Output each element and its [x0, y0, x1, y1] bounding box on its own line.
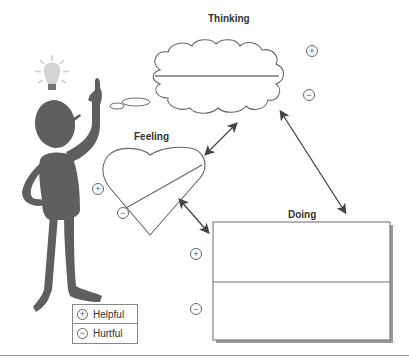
feeling-minus-icon: −	[117, 207, 129, 219]
thinking-cloud	[153, 40, 283, 114]
arrow-feeling-doing	[180, 200, 208, 232]
feeling-heart	[103, 147, 205, 235]
minus-icon: −	[77, 328, 88, 339]
thinking-plus-icon: +	[306, 45, 318, 57]
legend-label: Helpful	[93, 309, 124, 320]
doing-title: Doing	[288, 209, 316, 220]
plus-icon: +	[77, 309, 88, 320]
thought-bubble-medium	[122, 98, 150, 106]
legend-item-helpful: + Helpful	[73, 305, 137, 323]
doing-box	[213, 222, 393, 343]
thinking-minus-icon: −	[303, 89, 315, 101]
lightbulb-icon	[35, 55, 69, 90]
legend-item-hurtful: − Hurtful	[73, 323, 137, 342]
arrow-thinking-doing	[281, 112, 345, 212]
feeling-title: Feeling	[134, 131, 169, 142]
person-figure	[22, 78, 102, 312]
cbt-triangle-diagram: Thinking Feeling Doing + − + − + − + Hel…	[0, 0, 409, 361]
diagram-canvas	[0, 0, 409, 361]
legend-label: Hurtful	[93, 328, 122, 339]
thinking-title: Thinking	[208, 13, 250, 24]
doing-minus-icon: −	[190, 303, 202, 315]
arrow-thinking-feeling	[206, 124, 236, 154]
legend: + Helpful − Hurtful	[72, 304, 138, 344]
feeling-plus-icon: +	[92, 183, 104, 195]
bottom-divider	[0, 355, 409, 356]
doing-plus-icon: +	[190, 248, 202, 260]
thought-bubble-small	[110, 103, 124, 109]
